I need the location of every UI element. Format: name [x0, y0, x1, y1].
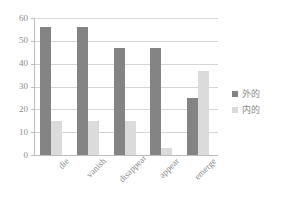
y-tick-mark-30 [31, 87, 34, 88]
legend-item-outer: 外的 [232, 86, 280, 102]
y-tick-label-60: 60 [6, 14, 28, 23]
x-label-disappear: disappear [116, 156, 144, 184]
y-tick-label-0: 0 [6, 151, 28, 160]
x-label-emerge: emerge [190, 156, 218, 184]
legend-item-inner: 内的 [232, 102, 280, 118]
y-tick-label-30: 30 [6, 82, 28, 91]
x-axis-labels: die vanish disappear appear emerge [34, 156, 218, 206]
y-tick-label-20: 20 [6, 105, 28, 114]
bar-chart: 60 50 40 30 20 10 0 die vanish disappear… [0, 0, 282, 206]
y-tick-label-10: 10 [6, 128, 28, 137]
y-tick-mark-20 [31, 109, 34, 110]
legend-swatch-icon-inner [232, 107, 238, 113]
legend-label-inner: 内的 [242, 105, 260, 115]
y-tick-mark-60 [31, 18, 34, 19]
x-label-appear: appear [153, 156, 181, 184]
y-tick-mark-40 [31, 64, 34, 65]
y-tick-label-50: 50 [6, 36, 28, 45]
legend: 外的 内的 [232, 86, 280, 118]
x-label-vanish: vanish [80, 156, 108, 184]
y-tick-label-40: 40 [6, 59, 28, 68]
y-tick-mark-10 [31, 132, 34, 133]
legend-swatch-icon-outer [232, 91, 238, 97]
x-label-die: die [43, 156, 71, 184]
legend-label-outer: 外的 [242, 89, 260, 99]
y-tick-mark-50 [31, 41, 34, 42]
